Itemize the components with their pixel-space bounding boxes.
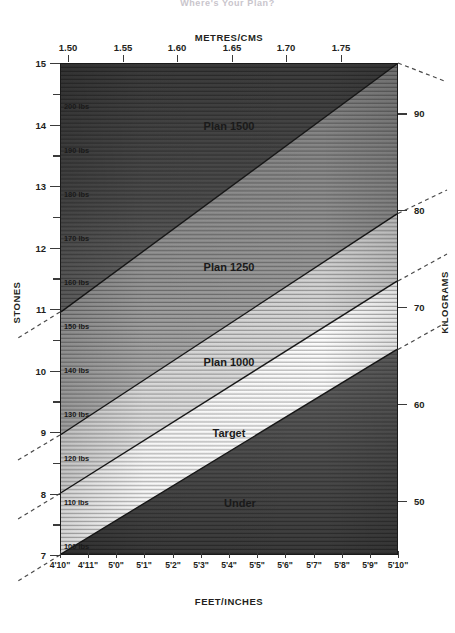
tick-label-left-7: 7 <box>24 550 46 561</box>
tick-left-7 <box>50 555 60 556</box>
tick-label-left-13: 13 <box>24 181 46 192</box>
tick-left-11 <box>50 309 60 310</box>
tick-label-top-6: 1.75 <box>332 42 351 53</box>
tick-label-left-11: 11 <box>24 304 46 315</box>
band-label-plan-1250: Plan 1250 <box>204 261 255 273</box>
tick-bottom-13 <box>398 551 399 558</box>
tick-label-top-4: 1.65 <box>223 42 242 53</box>
tick-right-50 <box>398 501 407 502</box>
tick-bottom-8 <box>257 551 258 558</box>
tick-left-10 <box>50 371 60 372</box>
tick-left-8 <box>50 494 60 495</box>
tick-right-90 <box>398 113 407 114</box>
tick-bottom-9 <box>285 551 286 558</box>
tick-top-1 <box>68 55 69 62</box>
tick-label-left-9: 9 <box>24 427 46 438</box>
lbs-label-180: 180 lbs <box>64 190 89 199</box>
left-axis-title: STONES <box>11 263 22 343</box>
tick-label-left-14: 14 <box>24 119 46 130</box>
lbs-label-110: 110 lbs <box>64 497 89 506</box>
tick-left-145 <box>53 94 60 95</box>
tick-right-70 <box>398 307 407 308</box>
band-chart-svg <box>61 64 397 554</box>
tick-label-right-80: 80 <box>414 205 444 216</box>
tick-left-9 <box>50 432 60 433</box>
lbs-label-140: 140 lbs <box>64 366 89 375</box>
tick-bottom-6 <box>201 551 202 558</box>
tick-label-top-2: 1.55 <box>114 42 133 53</box>
tick-label-bottom-4: 5'1" <box>136 560 152 570</box>
tick-bottom-3 <box>116 551 117 558</box>
tick-right-60 <box>398 404 407 405</box>
tick-left-95 <box>53 401 60 402</box>
tick-label-left-15: 15 <box>24 58 46 69</box>
tick-label-bottom-11: 5'8" <box>334 560 350 570</box>
tick-bottom-4 <box>144 551 145 558</box>
tick-label-bottom-8: 5'5" <box>249 560 265 570</box>
band-label-target: Target <box>213 427 246 439</box>
tick-label-right-50: 50 <box>414 495 444 506</box>
tick-label-left-12: 12 <box>24 242 46 253</box>
tick-label-bottom-9: 5'6" <box>277 560 293 570</box>
tick-label-bottom-1: 4'10" <box>50 560 70 570</box>
tick-label-top-3: 1.60 <box>168 42 187 53</box>
tick-left-13 <box>50 186 60 187</box>
tick-left-75 <box>53 524 60 525</box>
tick-label-bottom-6: 5'3" <box>193 560 209 570</box>
tick-top-5 <box>286 55 287 62</box>
tick-label-left-8: 8 <box>24 488 46 499</box>
tick-label-bottom-12: 5'9" <box>362 560 378 570</box>
tick-bottom-1 <box>60 551 61 558</box>
tick-label-bottom-2: 4'11" <box>78 560 98 570</box>
tick-top-3 <box>177 55 178 62</box>
side-shading-overlay <box>61 64 397 554</box>
tick-label-right-60: 60 <box>414 398 444 409</box>
tick-bottom-5 <box>173 551 174 558</box>
lbs-label-150: 150 lbs <box>64 322 89 331</box>
tick-label-bottom-10: 5'7" <box>306 560 322 570</box>
tick-top-6 <box>341 55 342 62</box>
lbs-label-120: 120 lbs <box>64 454 89 463</box>
bottom-axis-title: FEET/INCHES <box>60 596 398 607</box>
tick-bottom-11 <box>342 551 343 558</box>
tick-left-15 <box>50 63 60 64</box>
tick-bottom-12 <box>370 551 371 558</box>
tick-left-135 <box>53 155 60 156</box>
lbs-label-130: 130 lbs <box>64 410 89 419</box>
band-label-plan-1500: Plan 1500 <box>204 120 255 132</box>
tick-bottom-7 <box>229 551 230 558</box>
tick-top-2 <box>123 55 124 62</box>
band-label-under: Under <box>224 497 256 509</box>
tick-label-top-1: 1.50 <box>59 42 78 53</box>
tick-right-80 <box>398 210 407 211</box>
tick-label-top-5: 1.70 <box>277 42 296 53</box>
tick-label-left-10: 10 <box>24 365 46 376</box>
tick-label-bottom-3: 5'0" <box>108 560 124 570</box>
lbs-label-170: 170 lbs <box>64 234 89 243</box>
tick-left-105 <box>53 340 60 341</box>
band-label-plan-1000: Plan 1000 <box>204 356 255 368</box>
lbs-label-100: 100 lbs <box>64 541 89 550</box>
tick-top-4 <box>232 55 233 62</box>
tick-left-85 <box>53 463 60 464</box>
page-title: Where's Your Plan? <box>0 0 455 8</box>
tick-left-115 <box>53 278 60 279</box>
tick-label-bottom-13: 5'10" <box>388 560 408 570</box>
lbs-label-190: 190 lbs <box>64 146 89 155</box>
tick-label-right-90: 90 <box>414 108 444 119</box>
tick-label-right-70: 70 <box>414 302 444 313</box>
tick-bottom-10 <box>314 551 315 558</box>
chart-plot-area <box>60 63 398 555</box>
tick-label-bottom-7: 5'4" <box>221 560 237 570</box>
tick-left-12 <box>50 248 60 249</box>
tick-left-14 <box>50 125 60 126</box>
tick-left-125 <box>53 217 60 218</box>
tick-label-bottom-5: 5'2" <box>165 560 181 570</box>
lbs-label-200: 200 lbs <box>64 102 89 111</box>
lbs-label-160: 160 lbs <box>64 278 89 287</box>
tick-bottom-2 <box>88 551 89 558</box>
